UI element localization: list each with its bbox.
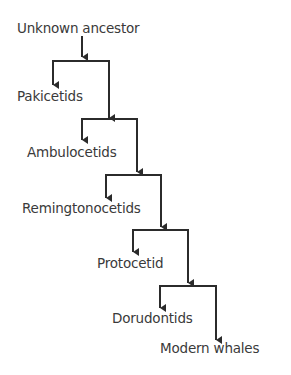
- node-unknown-ancestor: Unknown ancestor: [17, 22, 139, 36]
- node-ambulocetids: Ambulocetids: [27, 146, 117, 160]
- node-protocetid: Protocetid: [97, 257, 163, 271]
- node-modern-whales: Modern whales: [160, 342, 259, 356]
- node-remingtonocetids: Remingtonocetids: [22, 202, 141, 216]
- node-pakicetids: Pakicetids: [17, 90, 83, 104]
- node-dorudontids: Dorudontids: [112, 312, 193, 326]
- phylogeny-diagram: Unknown ancestor Pakicetids Ambulocetids…: [0, 0, 291, 375]
